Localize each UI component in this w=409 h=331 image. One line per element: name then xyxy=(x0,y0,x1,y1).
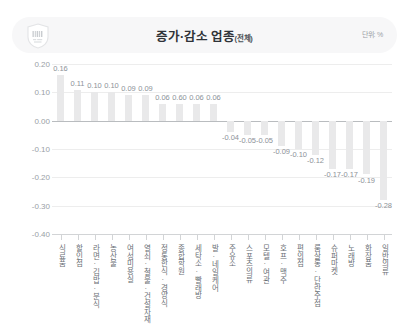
x-axis-category-label: 할인점 xyxy=(74,244,82,267)
x-axis-tick xyxy=(316,234,317,240)
bar-value-label: 0.10 xyxy=(87,81,102,90)
x-axis-category-label: 여성미용실 xyxy=(125,244,133,283)
x-axis-tick xyxy=(367,234,368,240)
bar-value-label: -0.19 xyxy=(358,176,375,185)
chart-card: 증가·감소 업종(전체) 단위: % 0.200.100.00-0.10-0.2… xyxy=(0,0,409,331)
bar xyxy=(278,121,285,147)
bar xyxy=(363,121,370,175)
bar xyxy=(57,75,64,120)
bar-value-label: 0.06 xyxy=(189,93,204,102)
bar-value-label: -0.05 xyxy=(256,136,273,145)
bar-value-label: -0.17 xyxy=(341,170,358,179)
bar xyxy=(74,90,81,121)
bar xyxy=(227,121,234,132)
bar xyxy=(295,121,302,149)
bar xyxy=(125,95,132,121)
bar-value-label: -0.09 xyxy=(273,147,290,156)
bar xyxy=(380,121,387,200)
x-axis-tick xyxy=(299,234,300,240)
y-axis-tick-label: 0.10 xyxy=(34,88,50,97)
y-axis-tick-label: 0.20 xyxy=(34,60,50,69)
bar-value-label: 0.06 xyxy=(155,93,170,102)
x-axis-category-labels: 식료품할인점라면·김밥·분식농산물여성미용실열쇠·철물·건설자재정통한식·경양식… xyxy=(52,244,392,330)
x-axis-category-label: 모텔·여관 xyxy=(261,244,269,284)
bar-series: 0.160.110.100.100.090.090.060.600.060.06… xyxy=(52,64,392,234)
x-axis-category-label: 스포츠의류 xyxy=(244,244,252,283)
bar xyxy=(142,95,149,121)
x-axis-category-label: 정통한식·경양식 xyxy=(159,244,167,307)
chart-title-suffix: (전체) xyxy=(234,34,252,43)
x-axis-category-label: 호프·맥주 xyxy=(278,244,286,284)
x-axis-category-label: 룸살롱·단란주점 xyxy=(312,244,320,307)
bar-value-label: 0.06 xyxy=(206,93,221,102)
x-axis-tick xyxy=(333,234,334,240)
x-axis-tick xyxy=(282,234,283,240)
y-axis-tick-label: -0.30 xyxy=(32,201,50,210)
x-axis-tick xyxy=(350,234,351,240)
chart-header: 증가·감소 업종(전체) 단위: % xyxy=(12,17,397,53)
bar-value-label: 0.16 xyxy=(53,64,68,73)
bar-value-label: -0.10 xyxy=(290,150,307,159)
bar-value-label: -0.17 xyxy=(324,170,341,179)
x-axis-tick xyxy=(265,234,266,240)
x-axis-category-label: 열쇠·철물·건설자재 xyxy=(142,244,150,323)
x-axis-category-label: 화장품 xyxy=(363,244,371,267)
bar-value-label: -0.12 xyxy=(307,156,324,165)
bar xyxy=(346,121,353,169)
bar xyxy=(261,121,268,135)
x-axis-tick xyxy=(248,234,249,240)
y-axis-tick-label: -0.40 xyxy=(32,230,50,239)
x-axis-category-label: 발·네일케어 xyxy=(210,244,218,291)
x-axis-tick xyxy=(384,234,385,240)
x-axis-tick xyxy=(180,234,181,240)
chart-unit-label: 단위: % xyxy=(362,29,383,39)
x-axis-baseline xyxy=(52,234,392,235)
x-axis-category-label: 일반의류 xyxy=(380,244,388,275)
x-axis-category-label: 세탁소·빨래방 xyxy=(193,244,201,299)
bar xyxy=(159,104,166,121)
x-axis-tick xyxy=(163,234,164,240)
bar-value-label: -0.28 xyxy=(375,201,392,210)
bar xyxy=(329,121,336,169)
x-axis-tick xyxy=(112,234,113,240)
x-axis-category-label: 노래방 xyxy=(346,244,354,267)
x-axis-category-label: 슈퍼마켓 xyxy=(329,244,337,275)
bar-value-label: 0.10 xyxy=(104,81,119,90)
x-axis-category-label: 라면·김밥·분식 xyxy=(91,244,99,308)
x-axis-ticks xyxy=(52,234,392,241)
bar-value-label: 0.09 xyxy=(138,84,153,93)
x-axis-tick xyxy=(78,234,79,240)
bar xyxy=(108,92,115,120)
y-axis-tick-label: -0.10 xyxy=(32,145,50,154)
bar-value-label: 0.11 xyxy=(70,79,84,88)
bar xyxy=(193,104,200,121)
bar-value-label: 0.60 xyxy=(172,93,187,102)
y-axis-tick-label: -0.20 xyxy=(32,173,50,182)
x-axis-category-label: 편의점 xyxy=(295,244,303,267)
bar-value-label: -0.04 xyxy=(222,133,239,142)
bar xyxy=(210,104,217,121)
x-axis-category-label: 식료품 xyxy=(57,244,65,267)
x-axis-tick xyxy=(146,234,147,240)
chart-title: 증가·감소 업종(전체) xyxy=(12,26,397,45)
x-axis-tick xyxy=(214,234,215,240)
chart-plot-area: 0.200.100.00-0.10-0.20-0.30-0.40 0.160.1… xyxy=(0,64,409,331)
x-axis-category-label: 종합학원 xyxy=(176,244,184,275)
y-axis: 0.200.100.00-0.10-0.20-0.30-0.40 xyxy=(16,64,50,234)
y-axis-tick-label: 0.00 xyxy=(34,116,50,125)
bar-value-label: 0.09 xyxy=(121,84,136,93)
x-axis-category-label: 농산물 xyxy=(108,244,116,267)
bar xyxy=(176,104,183,121)
x-axis-tick xyxy=(95,234,96,240)
chart-title-main: 증가·감소 업종 xyxy=(156,30,234,44)
bar xyxy=(312,121,319,155)
x-axis-tick xyxy=(231,234,232,240)
x-axis-category-label: 주유소 xyxy=(227,244,235,267)
x-axis-tick xyxy=(61,234,62,240)
bar xyxy=(91,92,98,120)
x-axis-tick xyxy=(129,234,130,240)
bar-value-label: -0.05 xyxy=(239,136,256,145)
bar xyxy=(244,121,251,135)
x-axis-tick xyxy=(197,234,198,240)
